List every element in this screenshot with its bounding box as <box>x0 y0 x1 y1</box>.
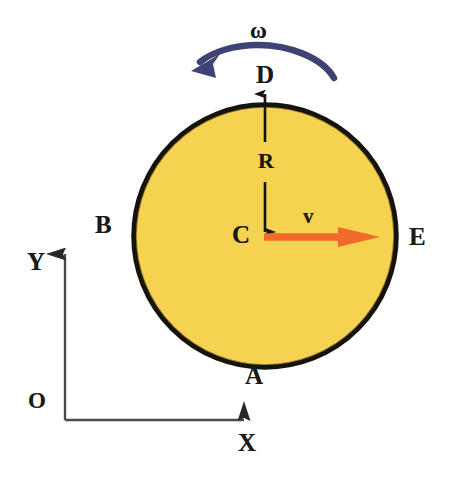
y-axis-label: Y <box>27 249 45 274</box>
point-label-c: C <box>232 222 250 247</box>
point-label-b: B <box>95 212 112 237</box>
velocity-label: v <box>303 206 314 227</box>
rolling-disk-figure: D A B E C R v ω Y X O <box>0 0 451 477</box>
point-label-a: A <box>245 363 263 388</box>
point-label-e: E <box>409 224 426 249</box>
figure-canvas <box>0 0 451 477</box>
radius-label: R <box>258 150 274 172</box>
x-axis-label: X <box>238 430 256 455</box>
point-label-d: D <box>256 62 274 87</box>
angular-velocity-label: ω <box>250 19 267 42</box>
origin-label: O <box>28 389 46 412</box>
